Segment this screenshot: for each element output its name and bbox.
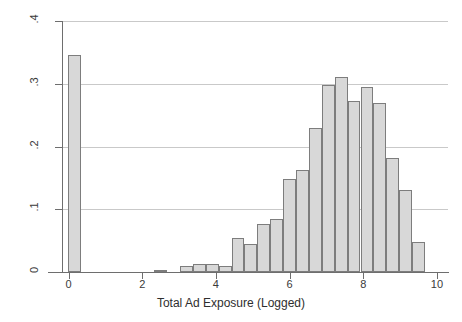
histogram-bar: [68, 55, 81, 272]
x-axis-title: Total Ad Exposure (Logged): [0, 296, 462, 310]
histogram-bar: [322, 85, 335, 272]
histogram-bar: [361, 87, 374, 272]
histogram-bar: [257, 224, 270, 272]
histogram-bar: [193, 264, 206, 272]
x-axis-line: [48, 272, 449, 273]
histogram-bar: [232, 238, 245, 273]
x-tick-label: 6: [270, 278, 310, 290]
histogram-bar: [206, 264, 219, 272]
x-tick-label: 8: [343, 278, 383, 290]
histogram-bar: [373, 103, 386, 272]
x-tick-label: 0: [49, 278, 89, 290]
x-tick-label: 4: [196, 278, 236, 290]
histogram-bar: [386, 158, 399, 272]
histogram-bar: [270, 219, 283, 272]
plot-area: [63, 21, 448, 272]
y-tick-label: .1: [28, 187, 40, 227]
y-tick-label: 0: [28, 250, 40, 290]
y-tick-label: .4: [28, 0, 40, 39]
gridline-y-.3: [63, 84, 448, 85]
gridline-y-.2: [63, 147, 448, 148]
y-tick-mark: [55, 21, 63, 22]
x-tick-label: 2: [122, 278, 162, 290]
y-tick-mark: [55, 84, 63, 85]
y-tick-mark: [55, 272, 63, 273]
histogram-bar: [296, 170, 309, 272]
gridline-y-.4: [63, 21, 448, 22]
y-tick-mark: [55, 147, 63, 148]
histogram-bar: [335, 77, 348, 272]
y-tick-label: .3: [28, 62, 40, 102]
histogram-bar: [399, 190, 412, 272]
y-tick-label: .2: [28, 125, 40, 165]
histogram-bar: [309, 128, 322, 272]
x-tick-label: 10: [417, 278, 457, 290]
histogram-figure: 0.1.2.3.4 0246810 Density Total Ad Expos…: [0, 0, 462, 322]
histogram-bar: [412, 242, 425, 272]
histogram-bar: [244, 244, 257, 272]
histogram-bar: [283, 179, 296, 272]
y-tick-mark: [55, 209, 63, 210]
histogram-bar: [348, 101, 361, 272]
